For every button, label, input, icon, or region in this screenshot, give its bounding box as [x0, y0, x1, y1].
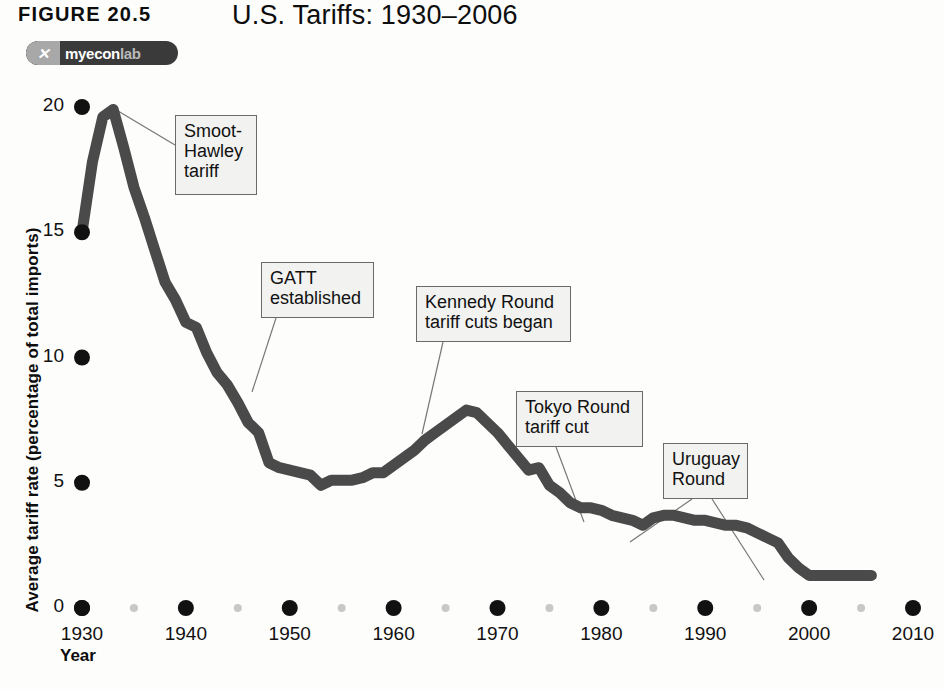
x-tick-label-1980: 1980 [561, 623, 641, 645]
myeconlab-mark-icon: ✕ [26, 41, 60, 65]
y-tick-label-20: 20 [24, 94, 64, 116]
x-tick-label-2000: 2000 [769, 623, 849, 645]
x-tick-dot-1970 [490, 600, 506, 616]
leader-line-gatt [252, 318, 276, 392]
myeconlab-logo[interactable]: ✕ my econ lab [26, 41, 178, 65]
x-minor-tick-dot-1985 [649, 604, 657, 612]
figure-header: FIGURE 20.5 U.S. Tariffs: 1930–2006 ✕ my… [0, 0, 944, 80]
chart-svg [0, 80, 944, 689]
y-tick-dot-5 [74, 475, 90, 491]
x-tick-label-1990: 1990 [665, 623, 745, 645]
x-minor-tick-dot-1975 [545, 604, 553, 612]
y-tick-dot-15 [74, 224, 90, 240]
x-tick-dot-2010 [905, 600, 921, 616]
annotation-tokyo: Tokyo Round tariff cut [516, 391, 643, 447]
x-tick-label-1950: 1950 [250, 623, 330, 645]
y-tick-label-10: 10 [24, 345, 64, 367]
y-tick-label-0: 0 [24, 595, 64, 617]
annotation-uruguay: Uruguay Round [663, 443, 748, 499]
x-minor-tick-dot-2005 [857, 604, 865, 612]
figure-root: FIGURE 20.5 U.S. Tariffs: 1930–2006 ✕ my… [0, 0, 944, 689]
x-tick-dot-1990 [697, 600, 713, 616]
chart-plot-area: Average tariff rate (percentage of total… [0, 80, 944, 689]
x-minor-tick-dot-1995 [753, 604, 761, 612]
x-tick-dot-1930 [74, 600, 90, 616]
x-tick-dot-1940 [178, 600, 194, 616]
annotation-gatt: GATT established [261, 262, 374, 318]
y-tick-label-15: 15 [24, 219, 64, 241]
leader-line-kennedy [422, 342, 443, 434]
x-axis-title: Year [60, 646, 96, 666]
x-minor-tick-dot-1935 [130, 604, 138, 612]
annotation-kennedy: Kennedy Round tariff cuts began [416, 286, 571, 342]
y-tick-dot-20 [74, 99, 90, 115]
x-tick-dot-2000 [801, 600, 817, 616]
x-tick-label-1930: 1930 [42, 623, 122, 645]
x-minor-tick-dot-1965 [442, 604, 450, 612]
x-minor-tick-dot-1955 [338, 604, 346, 612]
x-tick-label-1970: 1970 [458, 623, 538, 645]
leader-line-uruguay [712, 499, 764, 580]
logo-text-my: my [65, 46, 86, 61]
x-tick-label-2010: 2010 [873, 623, 944, 645]
x-tick-label-1960: 1960 [354, 623, 434, 645]
logo-text-econ: econ [86, 46, 120, 61]
x-tick-dot-1950 [282, 600, 298, 616]
x-tick-dot-1960 [386, 600, 402, 616]
figure-label: FIGURE 20.5 [18, 3, 151, 26]
logo-text-lab: lab [120, 46, 141, 61]
x-minor-tick-dot-1945 [234, 604, 242, 612]
figure-title: U.S. Tariffs: 1930–2006 [232, 0, 518, 31]
x-tick-label-1940: 1940 [146, 623, 226, 645]
y-tick-dot-10 [74, 350, 90, 366]
x-tick-dot-1980 [593, 600, 609, 616]
y-tick-label-5: 5 [24, 470, 64, 492]
annotation-smoot-hawley: Smoot- Hawley tariff [175, 115, 257, 195]
